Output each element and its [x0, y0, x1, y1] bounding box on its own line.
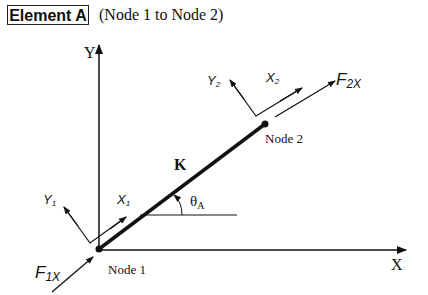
stiffness-label: K	[174, 156, 186, 174]
local-y2-label: Y2	[207, 73, 220, 89]
angle-arc-icon	[174, 195, 182, 215]
force-f1x-label: F1X	[35, 263, 60, 284]
node2-label: Node 2	[265, 131, 303, 147]
node2-dot	[262, 121, 269, 128]
global-y-label: Y	[84, 44, 96, 62]
angle-label: θA	[190, 193, 204, 211]
truss-element-diagram	[0, 0, 428, 295]
node1-dot	[96, 246, 103, 253]
local-y1-label: Y1	[43, 192, 56, 208]
node1-label: Node 1	[108, 262, 146, 278]
element-bar	[99, 124, 265, 249]
local-x2-label: X2	[266, 70, 279, 86]
global-x-label: X	[391, 256, 403, 274]
local-x1-label: X1	[117, 192, 130, 208]
force-f2x-label: F2X	[336, 70, 361, 91]
